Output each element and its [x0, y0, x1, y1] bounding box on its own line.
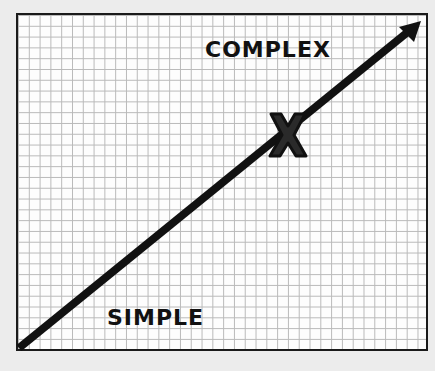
complex-label: COMPLEX	[205, 39, 331, 61]
simple-label: SIMPLE	[107, 307, 204, 329]
complexity-arrow-shaft	[19, 31, 409, 348]
